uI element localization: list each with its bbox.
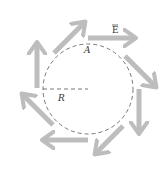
field-diagram: E A R xyxy=(0,0,168,170)
radius-label: R xyxy=(57,93,65,103)
arrow-lower-right xyxy=(96,126,123,153)
arrow-upper-right xyxy=(125,56,155,86)
point-a-label: A xyxy=(83,45,91,55)
field-label: E xyxy=(112,25,119,35)
